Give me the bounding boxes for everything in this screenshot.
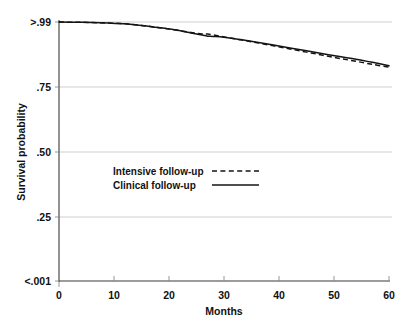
x-tick-label-50: 50 (328, 289, 340, 301)
y-tick-label-25: .25 (36, 211, 51, 223)
x-tick-label-40: 40 (273, 289, 285, 301)
y-axis-title: Survival probability (15, 103, 27, 201)
x-tick-label-60: 60 (383, 289, 395, 301)
legend-label-intensive: Intensive follow-up (113, 166, 204, 177)
x-tick-label-0: 0 (56, 289, 62, 301)
y-tick-label-50: .50 (36, 146, 51, 158)
y-tick-label-99: >.99 (30, 16, 51, 28)
chart-background (0, 0, 416, 323)
y-tick-label-001: <.001 (24, 275, 51, 287)
y-tick-label-75: .75 (36, 81, 51, 93)
x-tick-label-10: 10 (108, 289, 120, 301)
survival-chart: >.99 .75 .50 .25 <.001 0 10 20 30 40 50 … (0, 0, 416, 323)
x-axis-title: Months (205, 305, 242, 317)
x-tick-label-20: 20 (163, 289, 175, 301)
legend-label-clinical: Clinical follow-up (113, 180, 196, 191)
x-tick-label-30: 30 (218, 289, 230, 301)
survival-plot-canvas: >.99 .75 .50 .25 <.001 0 10 20 30 40 50 … (0, 0, 416, 323)
